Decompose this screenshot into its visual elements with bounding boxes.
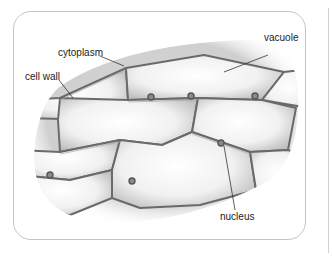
cell	[250, 150, 310, 200]
nucleus	[252, 93, 258, 99]
nucleus	[188, 93, 194, 99]
cell-diagram: cytoplasm cell wall vacuole nucleus	[0, 0, 332, 258]
nucleus	[47, 172, 53, 178]
nucleus	[148, 94, 154, 100]
label-vacuole: vacuole	[264, 32, 299, 43]
label-cell-wall: cell wall	[25, 71, 60, 82]
nucleus	[218, 140, 224, 146]
nucleus	[129, 178, 135, 184]
label-nucleus: nucleus	[220, 211, 254, 222]
label-cytoplasm: cytoplasm	[58, 47, 103, 58]
